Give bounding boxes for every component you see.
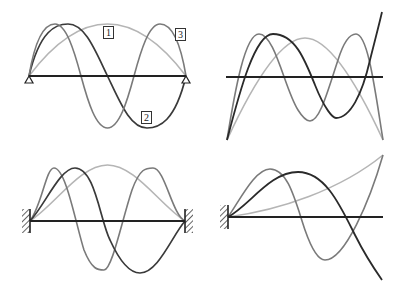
mode-1-curve [30, 165, 185, 221]
mode-2-curve [228, 172, 382, 280]
panel-simply-supported [25, 24, 190, 128]
fixed-support-icon [220, 205, 228, 229]
panel-cantilever [220, 155, 383, 280]
fixed-support-left-icon [22, 209, 30, 233]
mode-label-3: 3 [175, 28, 186, 41]
mode-label-2: 2 [141, 111, 152, 124]
fixed-support-right-icon [185, 209, 193, 233]
mode-1-curve [228, 155, 383, 217]
panel-free-free [226, 12, 383, 140]
mode-3-curve [227, 34, 383, 140]
panel-fixed-fixed [22, 165, 193, 273]
mode-label-1: 1 [103, 26, 114, 39]
mode-1-curve [227, 38, 383, 140]
mode-shapes-diagram [0, 0, 400, 293]
mode-3-curve [30, 168, 185, 270]
